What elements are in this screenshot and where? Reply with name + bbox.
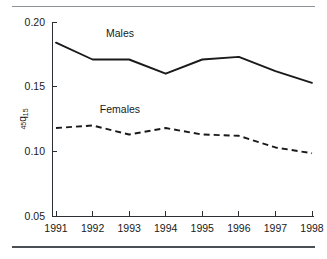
y-axis-label: 45q15 (17, 108, 29, 129)
y-axis-tick-label: 0.05 (25, 210, 46, 222)
x-axis-tick-label: 1998 (300, 222, 324, 234)
y-axis-label-postsub: 15 (22, 108, 29, 116)
y-axis-label-presub: 45 (20, 122, 27, 130)
y-axis-tick-label: 0.10 (25, 145, 46, 157)
x-axis-tick-label: 1997 (264, 222, 288, 234)
series-line-females (56, 125, 312, 153)
series-label-females: Females (100, 103, 140, 115)
figure-container: 0.050.100.150.20199119921993199419951996… (0, 0, 327, 259)
y-axis-label-text: 45q15 (17, 108, 29, 129)
chart-plot-area: 0.050.100.150.20199119921993199419951996… (0, 0, 327, 259)
x-axis-tick-label: 1996 (227, 222, 251, 234)
series-line-males (56, 43, 312, 83)
x-axis-tick-label: 1995 (191, 222, 215, 234)
x-axis-tick-label: 1994 (154, 222, 178, 234)
series-label-males: Males (106, 27, 134, 39)
y-axis-tick-label: 0.20 (25, 16, 46, 28)
y-axis-tick-label: 0.15 (25, 80, 46, 92)
x-axis-tick-label: 1992 (81, 222, 105, 234)
chart-axes (52, 22, 314, 216)
line-chart: 0.050.100.150.20199119921993199419951996… (0, 0, 327, 259)
x-axis-tick-label: 1991 (44, 222, 68, 234)
x-axis-tick-label: 1993 (117, 222, 141, 234)
